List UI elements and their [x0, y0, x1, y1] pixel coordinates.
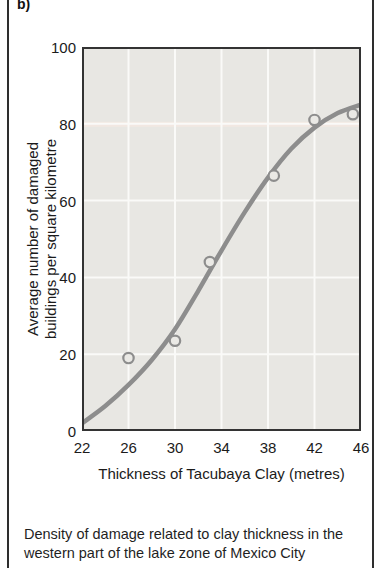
y-tick-label: 0: [68, 424, 76, 439]
figure-right-border: [372, 0, 374, 568]
x-tick-label: 34: [213, 440, 230, 455]
y-tick-label: 20: [59, 347, 76, 362]
caption-line2: western part of the lake zone of Mexico …: [24, 544, 360, 563]
data-point: [309, 115, 319, 125]
x-tick-label: 30: [167, 440, 184, 455]
caption-line1: Density of damage related to clay thickn…: [24, 525, 360, 544]
damage-vs-clay-thickness-chart: [82, 47, 361, 431]
data-point: [170, 336, 180, 346]
x-axis-title: Thickness of Tacubaya Clay (metres): [82, 465, 361, 482]
data-point: [123, 353, 133, 363]
y-tick-label: 80: [59, 116, 76, 131]
y-axis-title: Average number of damaged buildings per …: [24, 47, 60, 431]
data-point: [269, 170, 279, 180]
panel-label: b): [17, 0, 30, 12]
figure-left-border: [7, 0, 9, 568]
y-axis-title-line2: buildings per square kilometre: [42, 47, 60, 431]
y-axis-title-line1: Average number of damaged: [24, 47, 42, 431]
figure-caption: Density of damage related to clay thickn…: [24, 525, 360, 562]
y-tick-label: 40: [59, 270, 76, 285]
data-point: [205, 257, 215, 267]
x-tick-label: 46: [353, 440, 370, 455]
x-tick-label: 22: [74, 440, 91, 455]
x-tick-label: 26: [120, 440, 137, 455]
figure-panel-b: b) 020406080100 22263034384246 Average n…: [0, 0, 381, 568]
x-tick-label: 38: [260, 440, 277, 455]
data-point: [348, 109, 358, 119]
y-tick-label: 60: [59, 193, 76, 208]
x-tick-label: 42: [306, 440, 323, 455]
